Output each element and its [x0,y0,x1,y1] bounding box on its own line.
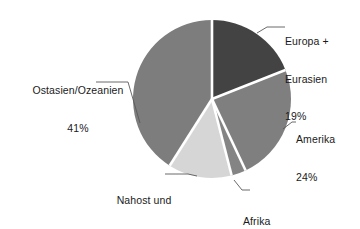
pie-label-amerika-value: 24% [296,171,356,184]
pie-label-europa-line1: Europa + [285,35,357,48]
pie-label-nahost: Nahost und Südasien 13% [100,169,188,229]
pie-chart-figure: Europa + Eurasien 19% Amerika 24% Afrika… [0,0,360,229]
pie-label-europa-line2: Eurasien [285,73,357,86]
pie-label-ostasien: Ostasien/Ozeanien 41% [10,59,146,159]
pie-label-afrika-line1: Afrika [243,215,297,228]
leader-line-europa [257,27,285,33]
leader-line-afrika [234,180,250,190]
pie-label-afrika: Afrika 3% [243,190,297,229]
pie-label-amerika-line1: Amerika [296,133,356,146]
pie-label-ostasien-line1: Ostasien/Ozeanien [10,84,146,97]
pie-label-amerika: Amerika 24% [296,108,356,208]
pie-label-ostasien-value: 41% [10,122,146,135]
pie-label-nahost-line1: Nahost und [100,194,188,207]
